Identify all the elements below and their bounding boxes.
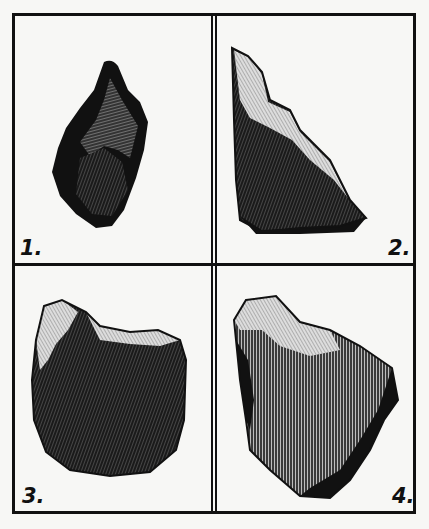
- figure-2-illustration: [232, 48, 366, 234]
- figure-4-label: 4.: [392, 484, 415, 508]
- figure-1-illustration: [52, 61, 148, 228]
- figure-4-illustration: [234, 296, 398, 498]
- figure-2-label: 2.: [388, 236, 411, 260]
- illustrations: [0, 0, 429, 529]
- figure-3-illustration: [32, 300, 186, 476]
- figure-1-label: 1.: [20, 236, 43, 260]
- figure-3-label: 3.: [22, 484, 45, 508]
